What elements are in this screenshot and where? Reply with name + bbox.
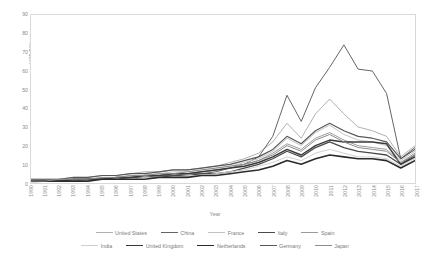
x-axis-title: Year <box>0 211 430 217</box>
plot-lines <box>31 15 415 183</box>
x-tick-label: 2010 <box>313 185 319 197</box>
legend-label: China <box>180 230 194 236</box>
legend-label: India <box>101 243 113 249</box>
y-tick-label: 40 <box>4 105 28 111</box>
y-tick-label: 20 <box>4 143 28 149</box>
y-tick-label: 30 <box>4 124 28 130</box>
legend-item-netherlands[interactable]: Netherlands <box>197 243 245 249</box>
legend-swatch-icon <box>315 245 332 246</box>
legend-swatch-icon <box>208 232 225 233</box>
legend-swatch-icon <box>258 232 275 233</box>
legend-swatch-icon <box>260 245 277 246</box>
legend-swatch-icon <box>301 232 318 233</box>
x-tick-label: 2013 <box>356 185 362 197</box>
y-tick-label: 10 <box>4 162 28 168</box>
x-tick-label: 2007 <box>271 185 277 197</box>
y-tick-label: 80 <box>4 30 28 36</box>
legend-item-india[interactable]: India <box>81 243 112 249</box>
x-tick-label: 2005 <box>242 185 248 197</box>
legend-item-united-kingdom[interactable]: United Kingdom <box>126 243 183 249</box>
y-axis: US$ Billions 0102030405060708090 <box>0 0 28 198</box>
line-chart: US$ Billions 0102030405060708090 1990199… <box>0 0 430 263</box>
chart-legend: United StatesChinaFranceItalySpainIndiaU… <box>0 226 430 258</box>
x-tick-label: 2004 <box>228 185 234 197</box>
legend-item-germany[interactable]: Germany <box>260 243 301 249</box>
legend-item-japan[interactable]: Japan <box>315 243 349 249</box>
x-tick-label: 1998 <box>142 185 148 197</box>
x-tick-label: 2011 <box>328 185 334 196</box>
x-tick-label: 1990 <box>28 185 34 197</box>
x-tick-label: 1994 <box>85 185 91 197</box>
x-tick-label: 1991 <box>42 185 48 197</box>
x-tick-label: 2003 <box>213 185 219 197</box>
x-tick-label: 2014 <box>371 185 377 197</box>
legend-label: Germany <box>279 243 301 249</box>
x-tick-label: 1993 <box>70 185 76 197</box>
x-tick-label: 1996 <box>113 185 119 197</box>
x-tick-label: 2000 <box>170 185 176 197</box>
y-tick-label: 70 <box>4 49 28 55</box>
legend-row: United StatesChinaFranceItalySpain <box>0 226 430 239</box>
x-tick-label: 2016 <box>399 185 405 197</box>
y-tick-label: 0 <box>4 181 28 187</box>
x-tick-label: 1999 <box>156 185 162 197</box>
legend-label: United States <box>115 230 147 236</box>
y-tick-label: 50 <box>4 87 28 93</box>
legend-swatch-icon <box>81 245 98 246</box>
legend-label: Italy <box>278 230 288 236</box>
x-tick-label: 2012 <box>342 185 348 197</box>
legend-swatch-icon <box>197 245 214 246</box>
series-line <box>31 45 415 181</box>
x-tick-label: 1995 <box>99 185 105 197</box>
y-tick-label: 90 <box>4 11 28 17</box>
legend-label: Japan <box>334 243 348 249</box>
legend-item-italy[interactable]: Italy <box>258 230 287 236</box>
legend-item-china[interactable]: China <box>161 230 194 236</box>
x-tick-label: 2009 <box>299 185 305 197</box>
legend-label: Spain <box>321 230 335 236</box>
legend-swatch-icon <box>126 245 143 246</box>
legend-item-spain[interactable]: Spain <box>301 230 334 236</box>
x-tick-label: 1992 <box>56 185 62 197</box>
x-tick-label: 2008 <box>285 185 291 197</box>
legend-item-united-states[interactable]: United States <box>96 230 147 236</box>
x-tick-label: 1997 <box>128 185 134 197</box>
x-axis: 1990199119921993199419951996199719981999… <box>30 185 416 211</box>
legend-label: United Kingdom <box>146 243 184 249</box>
x-tick-label: 2017 <box>414 185 420 197</box>
legend-swatch-icon <box>96 232 113 233</box>
x-tick-label: 2015 <box>385 185 391 197</box>
x-tick-label: 2002 <box>199 185 205 197</box>
legend-swatch-icon <box>161 232 178 233</box>
legend-label: Netherlands <box>217 243 246 249</box>
x-tick-label: 2006 <box>256 185 262 197</box>
legend-item-france[interactable]: France <box>208 230 244 236</box>
plot-area <box>30 14 416 184</box>
x-tick-label: 2001 <box>185 185 191 197</box>
legend-label: France <box>228 230 245 236</box>
legend-row: IndiaUnited KingdomNetherlandsGermanyJap… <box>0 239 430 252</box>
y-tick-label: 60 <box>4 68 28 74</box>
series-line <box>31 149 415 183</box>
